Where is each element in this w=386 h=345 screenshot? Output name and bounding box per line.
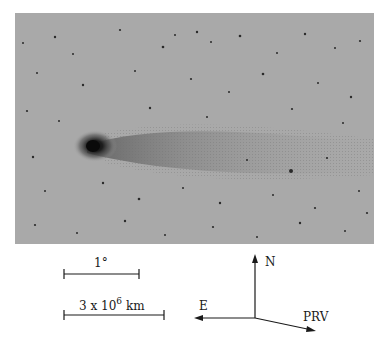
- prv-arrowhead: [306, 326, 316, 332]
- scale-label-km: 3 x 106 km: [79, 297, 145, 312]
- scale-label-km-base: 3 x 10: [79, 299, 116, 313]
- scale-label-km-exp: 6: [116, 296, 122, 306]
- annotations: [0, 0, 386, 345]
- north-arrowhead: [252, 254, 258, 263]
- east-arrowhead: [194, 315, 203, 321]
- compass-label-north: N: [265, 256, 276, 268]
- compass-label-east: E: [199, 300, 208, 312]
- scale-label-degree: 1°: [94, 257, 108, 269]
- compass-label-prv: PRV: [303, 311, 328, 323]
- compass: [194, 254, 316, 332]
- scale-label-km-unit: km: [126, 299, 145, 313]
- scale-bar-1deg: [64, 269, 139, 279]
